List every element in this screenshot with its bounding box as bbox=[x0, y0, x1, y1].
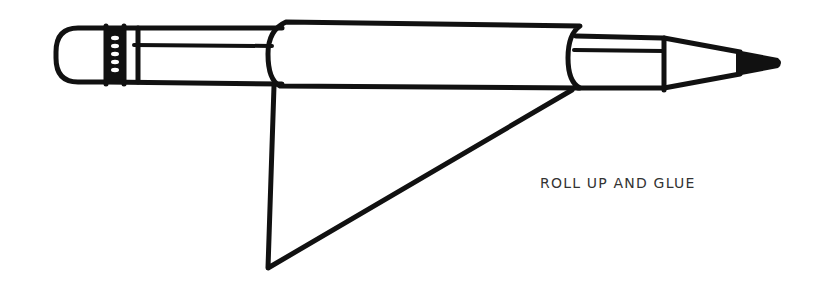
rolled-body bbox=[268, 22, 580, 88]
graphite-point bbox=[736, 50, 781, 76]
front-sleeve bbox=[574, 36, 664, 90]
pencil-craft-diagram: ROLL UP AND GLUE bbox=[0, 0, 823, 294]
ferrule bbox=[106, 26, 138, 84]
sharpened-tip bbox=[664, 38, 740, 88]
back-barrel bbox=[106, 28, 282, 84]
instruction-label: ROLL UP AND GLUE bbox=[540, 175, 695, 191]
pencil-drawing bbox=[0, 0, 823, 294]
eraser bbox=[56, 28, 106, 82]
glue-flap-triangle bbox=[268, 86, 572, 268]
